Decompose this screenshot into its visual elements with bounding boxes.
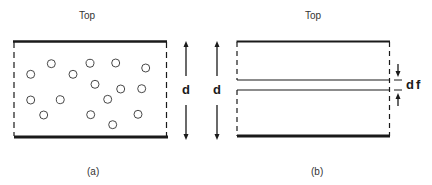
particle-circle — [117, 85, 125, 93]
panel-a-top-label: Top — [79, 10, 95, 21]
panel-a-caption: (a) — [87, 166, 99, 177]
panel-b-caption: (b) — [311, 166, 323, 177]
particle-circle — [40, 111, 48, 119]
particle-circle — [69, 70, 77, 78]
panel-a-dimension-label: d — [182, 82, 190, 97]
panel-a-box — [13, 42, 168, 138]
particles-group — [27, 59, 150, 129]
particle-circle — [109, 121, 117, 129]
particle-circle — [47, 60, 55, 68]
particle-circle — [91, 80, 99, 88]
panel-b-box — [237, 42, 391, 137]
panel-b-dimension-label: d — [213, 82, 221, 97]
particle-circle — [86, 59, 94, 67]
particle-circle — [138, 85, 146, 93]
film-thickness-indicator — [394, 64, 402, 106]
particle-circle — [87, 111, 95, 119]
particle-circle — [142, 64, 150, 72]
film-thickness-label: df — [406, 77, 422, 92]
particle-circle — [134, 110, 142, 118]
particle-circle — [112, 59, 120, 67]
panel-b-top-label: Top — [305, 10, 321, 21]
particle-circle — [104, 95, 112, 103]
particle-circle — [27, 96, 35, 104]
particle-circle — [27, 70, 35, 78]
particle-circle — [56, 96, 64, 104]
